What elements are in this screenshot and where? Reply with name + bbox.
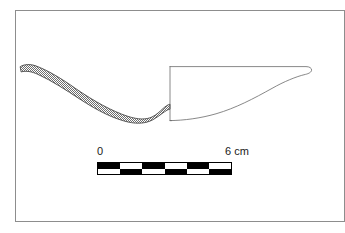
scale-bar-group: 0 6 cm [97,146,257,178]
scale-segment [187,169,209,175]
scale-bar [97,162,232,175]
scale-segment [120,169,142,175]
scale-label-min: 0 [97,146,103,157]
scale-segment [98,169,120,175]
scale-segment [165,169,187,175]
scale-segment [142,169,164,175]
scale-segment [209,169,231,175]
vessel-section-fill [14,58,180,132]
scale-bar-row-bottom [98,169,231,175]
scale-label-max: 6 cm [225,146,249,157]
vessel-profile-outline [170,67,312,121]
